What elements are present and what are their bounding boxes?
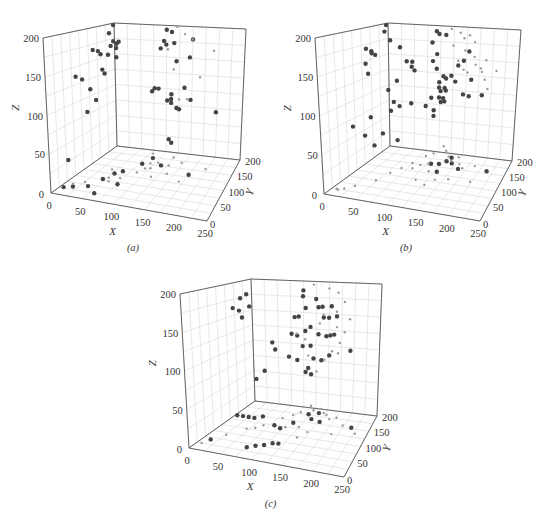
data-point [241,414,245,418]
x-axis-label: X [381,225,390,237]
data-point [342,424,344,426]
data-point [296,332,298,334]
data-point [314,297,318,301]
data-point [410,60,414,64]
data-point [349,318,351,320]
y-tick-label: 50 [493,202,504,213]
data-point [153,86,157,90]
data-point [444,159,448,163]
data-point [245,427,247,429]
data-point [213,50,215,52]
z-tick-label: 200 [160,289,176,300]
data-point [61,185,65,189]
data-point [272,423,276,427]
data-point [150,176,152,178]
data-point [156,86,160,90]
data-point [159,46,163,50]
data-point [66,158,70,162]
data-point [102,71,106,75]
data-point [298,426,300,428]
data-point [178,180,180,182]
x-tick-label: 0 [184,455,189,466]
data-point [297,314,301,318]
data-point [397,104,401,108]
data-point [447,178,449,180]
x-tick-label: 100 [377,212,393,223]
data-point [419,164,421,166]
data-point [375,179,377,181]
data-point [384,23,388,27]
data-point [306,366,310,370]
data-point [389,172,391,174]
series-light-points [335,28,497,191]
data-point [464,49,466,51]
data-point [72,182,74,184]
data-point [431,114,435,118]
data-point [166,173,168,175]
data-point [381,131,385,135]
data-point [165,98,169,102]
z-tick-label: 100 [27,111,43,122]
data-point [373,53,377,57]
data-point [238,296,242,300]
data-point [247,304,251,308]
data-point [458,156,460,158]
data-point [172,41,176,45]
z-tick-label: 150 [298,72,314,83]
data-point [431,59,435,63]
y-tick-label: 150 [509,172,525,183]
data-point [115,182,119,186]
y-tick-label: 100 [229,187,245,198]
data-point [457,60,459,62]
data-point [301,294,305,298]
data-point [323,314,325,316]
data-point [414,179,416,181]
data-point [173,68,175,70]
data-point [263,369,267,373]
chart-caption: (a) [127,242,140,254]
x-tick-label: 50 [75,206,86,217]
figure: 050100150200250050100150200050100150200X… [0,0,541,518]
data-point [339,342,341,344]
data-point [114,46,118,50]
data-point [114,42,118,46]
data-point [319,358,323,362]
data-point [463,37,465,39]
z-tick-label: 0 [39,189,44,200]
data-point [322,315,326,319]
data-point [247,415,251,419]
data-point [174,59,178,63]
data-point [449,156,453,160]
data-point [71,184,75,188]
data-point [484,79,486,81]
data-point [316,305,320,309]
z-tick-label: 100 [300,111,316,122]
data-point [199,76,201,78]
data-point [296,436,298,438]
data-point [336,326,338,328]
data-point [100,67,104,71]
x-tick-label: 200 [439,223,455,234]
data-point [328,287,330,289]
y-tick-label: 200 [517,157,533,168]
data-point [328,418,330,420]
data-point [311,356,315,360]
gridlines [43,23,246,221]
data-point [480,93,484,97]
data-point [168,164,170,166]
data-point [469,181,471,183]
data-point [392,100,396,104]
y-axis-label: Y [380,441,394,453]
data-point [149,167,151,169]
data-point [453,79,457,83]
z-tick-label: 150 [163,328,179,339]
data-point [254,427,256,429]
data-point [245,445,249,449]
data-point [443,145,445,147]
data-point [319,322,321,324]
data-point [448,155,450,157]
data-point [328,333,332,337]
data-point [386,88,390,92]
x-tick-label: 100 [241,467,257,478]
data-point [423,184,425,186]
